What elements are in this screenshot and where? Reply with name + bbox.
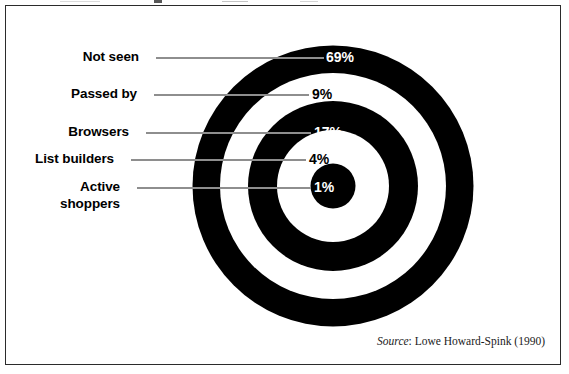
- value-label-passed-by: 9%: [312, 86, 332, 102]
- scan-artifact-speck: [300, 1, 318, 2]
- leader-line-list-builders: [131, 159, 306, 161]
- figure-canvas: Not seen Passed by Browsers List builder…: [0, 0, 569, 374]
- value-label-list-builders: 4%: [309, 151, 329, 167]
- category-label-passed-by: Passed by: [71, 85, 137, 102]
- category-label-not-seen: Not seen: [83, 48, 139, 65]
- scan-artifact-speck: [154, 0, 162, 3]
- value-label-browsers: 17%: [314, 124, 342, 140]
- scan-artifact-speck: [222, 1, 248, 2]
- category-label-browsers: Browsers: [68, 123, 129, 140]
- category-label-list-builders: List builders: [35, 150, 114, 167]
- category-label-active-shoppers: Active shoppers: [0, 178, 120, 212]
- figure-border-frame: Not seen Passed by Browsers List builder…: [5, 5, 561, 365]
- leader-line-not-seen: [156, 57, 324, 59]
- source-note-text: : Lowe Howard-Spink (1990): [409, 335, 545, 347]
- category-label-active-shoppers-line2: shoppers: [0, 195, 120, 212]
- leader-line-active-shoppers: [137, 187, 311, 189]
- source-note: Source: Lowe Howard-Spink (1990): [377, 335, 545, 347]
- value-label-active-shoppers: 1%: [314, 179, 334, 195]
- leader-line-passed-by: [154, 94, 309, 96]
- scan-artifact-speck: [60, 1, 100, 2]
- category-label-active-shoppers-line1: Active: [80, 179, 120, 194]
- leader-line-browsers: [146, 132, 311, 134]
- source-note-label: Source: [377, 335, 409, 347]
- value-label-not-seen: 69%: [326, 49, 354, 65]
